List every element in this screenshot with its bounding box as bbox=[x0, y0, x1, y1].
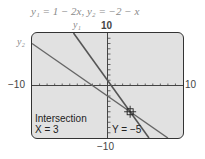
intersection-cursor-icon bbox=[124, 106, 136, 118]
x-min-label: −10 bbox=[8, 79, 25, 90]
intersection-readout: Intersection X = 3 bbox=[35, 113, 87, 135]
x-max-label: 10 bbox=[185, 79, 196, 90]
y-max-label: 10 bbox=[101, 20, 112, 31]
calculator-screen: Intersection X = 3 Y = −5 bbox=[31, 32, 184, 139]
y-min-label: −10 bbox=[97, 141, 114, 152]
intersection-y-value: Y = −5 bbox=[112, 124, 141, 135]
intersection-title: Intersection bbox=[35, 113, 87, 124]
y1-label: y₁ bbox=[73, 19, 81, 30]
chart-title: y₁ = 1 − 2x, y₂ = −2 − x bbox=[31, 5, 139, 17]
y2-label: y₂ bbox=[17, 36, 25, 47]
intersection-x-value: X = 3 bbox=[35, 124, 87, 135]
